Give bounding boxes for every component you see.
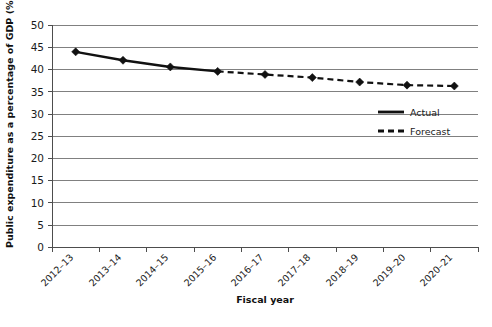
series-line-actual <box>76 52 218 72</box>
y-tick-marks <box>48 25 52 247</box>
line-chart: Public expenditure as a percentage of GD… <box>0 0 492 327</box>
y-axis-title: Public expenditure as a percentage of GD… <box>4 0 15 248</box>
x-tick-label-2018-19: 2018–19 <box>324 252 361 289</box>
x-tick-labels: 2012–13 2013–14 2014–15 2015–16 2016–17 … <box>39 252 455 289</box>
x-axis-title: Fiscal year <box>236 294 294 305</box>
data-point-marker <box>119 56 127 64</box>
series-line-forecast <box>218 71 455 86</box>
y-tick-label-0: 0 <box>37 241 44 253</box>
y-tick-label-35: 35 <box>31 86 44 98</box>
y-tick-label-30: 30 <box>31 108 44 120</box>
x-tick-label-2012-13: 2012–13 <box>39 252 76 289</box>
x-tick-label-2020-21: 2020–21 <box>418 252 455 289</box>
data-series-layer <box>72 48 459 90</box>
x-tick-label-2016-17: 2016–17 <box>229 252 266 289</box>
y-tick-label-20: 20 <box>31 152 44 164</box>
y-tick-label-45: 45 <box>31 41 44 53</box>
y-tick-label-50: 50 <box>31 19 44 31</box>
legend: Actual Forecast <box>378 107 450 137</box>
data-point-marker <box>261 70 269 78</box>
y-tick-labels: 50 45 40 35 30 25 20 15 10 5 0 <box>31 19 44 253</box>
y-tick-label-15: 15 <box>31 174 44 186</box>
x-tick-label-2014-15: 2014–15 <box>134 252 171 289</box>
data-point-marker <box>403 81 411 89</box>
legend-label-actual: Actual <box>410 107 440 118</box>
x-tick-marks <box>52 247 478 252</box>
x-tick-label-2017-18: 2017–18 <box>276 252 313 289</box>
x-tick-label-2015-16: 2015–16 <box>182 252 219 289</box>
data-point-marker <box>450 82 458 90</box>
y-tick-label-10: 10 <box>31 197 44 209</box>
chart-container: Public expenditure as a percentage of GD… <box>0 0 492 327</box>
y-tick-label-5: 5 <box>37 219 44 231</box>
data-point-marker <box>356 78 364 86</box>
x-tick-label-2019-20: 2019–20 <box>371 252 408 289</box>
x-tick-label-2013-14: 2013–14 <box>87 252 124 289</box>
y-tick-label-25: 25 <box>31 130 44 142</box>
data-point-marker <box>72 48 80 56</box>
legend-label-forecast: Forecast <box>410 126 450 137</box>
y-tick-label-40: 40 <box>31 63 44 75</box>
data-point-marker <box>308 74 316 82</box>
